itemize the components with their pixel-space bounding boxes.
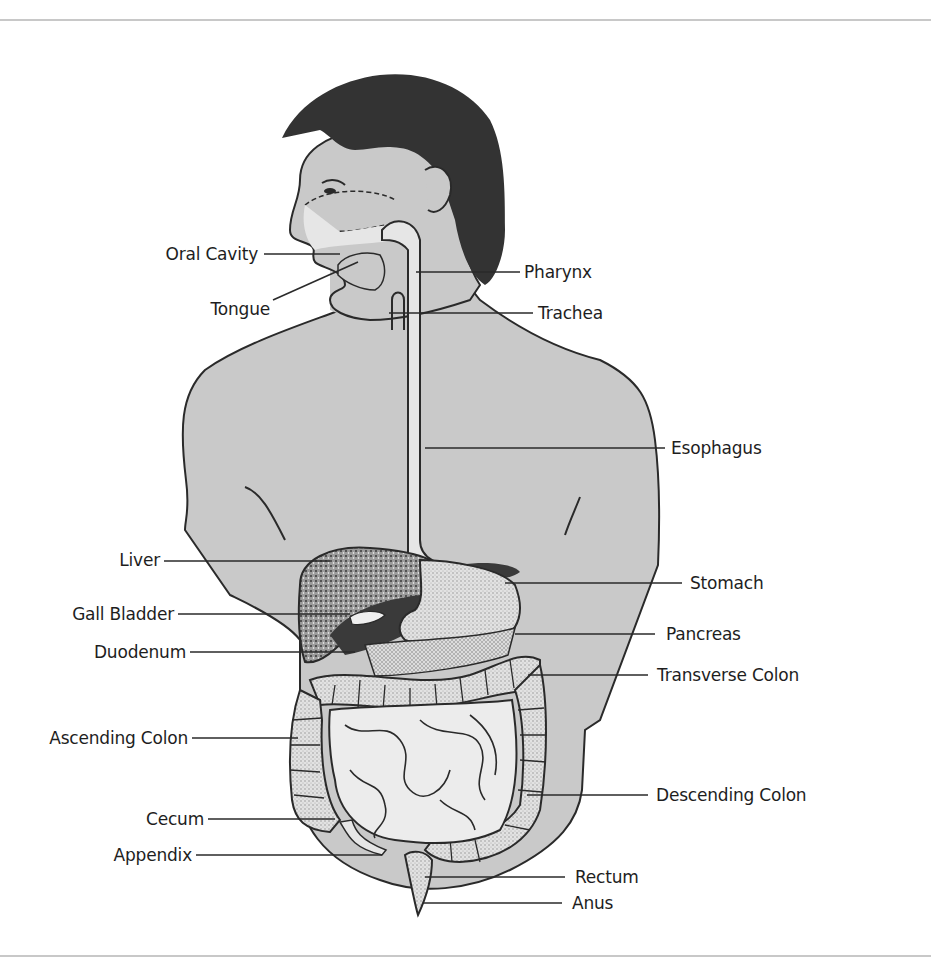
head bbox=[282, 74, 505, 320]
small-intestine bbox=[329, 700, 516, 843]
label-stomach: Stomach bbox=[690, 573, 764, 593]
label-tongue: Tongue bbox=[170, 299, 270, 319]
label-liver: Liver bbox=[80, 550, 160, 570]
label-pancreas: Pancreas bbox=[666, 624, 741, 644]
label-duodenum: Duodenum bbox=[60, 642, 186, 662]
label-gall-bladder: Gall Bladder bbox=[40, 604, 174, 624]
label-transverse-colon: Transverse Colon bbox=[657, 665, 799, 685]
label-anus: Anus bbox=[572, 893, 613, 913]
label-ascending-colon: Ascending Colon bbox=[10, 728, 188, 748]
label-pharynx: Pharynx bbox=[524, 262, 592, 282]
label-rectum: Rectum bbox=[575, 867, 639, 887]
label-appendix: Appendix bbox=[80, 845, 192, 865]
label-descending-colon: Descending Colon bbox=[656, 785, 806, 805]
label-trachea: Trachea bbox=[538, 303, 603, 323]
label-esophagus: Esophagus bbox=[671, 438, 762, 458]
label-cecum: Cecum bbox=[110, 809, 204, 829]
label-oral-cavity: Oral Cavity bbox=[140, 244, 258, 264]
